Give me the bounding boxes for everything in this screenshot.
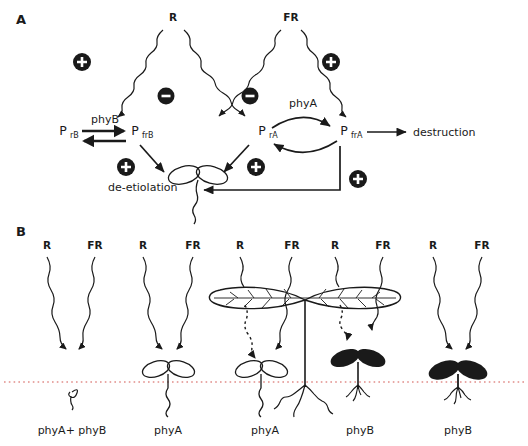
- col3-ray-r-above: [240, 257, 244, 287]
- ray-r-to-pra: [184, 30, 245, 116]
- col3-label-fr: FR: [284, 239, 299, 251]
- col4-ray-r-attenuated: [340, 305, 347, 340]
- col2-genotype: phyA: [154, 424, 182, 437]
- column-2: R FR phyA: [139, 239, 201, 437]
- col4-roots: [346, 385, 370, 401]
- col5-genotype: phyB: [444, 424, 472, 437]
- pool-pfra-sub: frA: [351, 131, 363, 140]
- col5-label-r: R: [429, 239, 437, 251]
- sign-minus-fr-pra: [242, 88, 259, 105]
- col1-ray-fr: [79, 257, 95, 349]
- col1-genotype: phyA+ phyB: [38, 424, 107, 437]
- col5-ray-r: [433, 257, 452, 349]
- col3-ray-r-attenuated: [245, 305, 255, 358]
- pool-pfrb-sub: frB: [142, 131, 154, 140]
- col3-seedling: [233, 358, 289, 417]
- column-3: R FR phyA: [233, 239, 299, 437]
- col3-genotype: phyA: [251, 424, 279, 437]
- sign-plus-pra-deetiolation: [247, 158, 265, 176]
- label-destruction: destruction: [413, 126, 475, 139]
- col5-seedling: [426, 357, 490, 404]
- sign-plus-r-prb: [73, 53, 91, 71]
- sign-plus-pfrb-deetiolation: [117, 158, 135, 176]
- pool-pfrb-base: P: [131, 123, 139, 138]
- pool-pfrb: P frB: [131, 123, 153, 140]
- panel-b: B R FR phyA+ phyB R FR phyA: [4, 224, 524, 437]
- col1-etiolated-seedling: [69, 390, 78, 410]
- arrow-pfra-to-pra: [274, 141, 337, 152]
- col5-ray-fr: [466, 257, 482, 349]
- panel-a-phya-label: phyA: [289, 97, 317, 110]
- panel-a-phyb-label: phyB: [91, 113, 119, 126]
- col4-seedling: [328, 345, 388, 401]
- col1-label-fr: FR: [87, 239, 102, 251]
- canopy-roots: [274, 385, 333, 417]
- sign-plus-pfra-deetiolation: [349, 170, 367, 188]
- pool-prb-sub: rB: [70, 131, 79, 140]
- col2-seedling: [140, 358, 196, 417]
- pool-pfra: P frA: [340, 123, 363, 140]
- panel-a: A R FR: [16, 11, 475, 224]
- sign-minus-r-pfrb: [158, 88, 175, 105]
- column-5: R FR phyB: [426, 239, 490, 437]
- panel-a-label-fr: FR: [283, 11, 298, 23]
- pool-prb: P rB: [59, 123, 79, 140]
- column-4: R FR phyB: [328, 239, 390, 437]
- col2-label-r: R: [139, 239, 147, 251]
- col4-label-r: R: [331, 239, 339, 251]
- col4-genotype: phyB: [346, 424, 374, 437]
- panel-a-label-r: R: [169, 11, 177, 23]
- pool-pra-sub: rA: [269, 131, 278, 140]
- pool-pra-base: P: [258, 123, 266, 138]
- col1-label-r: R: [43, 239, 51, 251]
- col2-ray-r: [143, 257, 162, 349]
- sign-plus-fr-pfra: [322, 53, 340, 71]
- col5-roots: [444, 387, 471, 404]
- col5-label-fr: FR: [474, 239, 489, 251]
- arrow-pfrb-to-deetiolation: [140, 145, 164, 172]
- panel-a-letter: A: [16, 12, 26, 27]
- panel-b-letter: B: [16, 224, 26, 239]
- arrow-pra-to-pfra: [272, 117, 330, 128]
- col2-ray-fr: [177, 257, 193, 349]
- label-de-etiolation: de-etiolation: [108, 181, 177, 194]
- col3-label-r: R: [236, 239, 244, 251]
- pool-prb-base: P: [59, 123, 67, 138]
- phytochrome-signalling-figure: A R FR: [0, 0, 528, 446]
- column-1: R FR phyA+ phyB: [38, 239, 107, 437]
- arrow-pra-to-deetiolation: [224, 145, 249, 172]
- col4-label-fr: FR: [375, 239, 390, 251]
- ray-r-to-prb: [118, 30, 163, 117]
- col4-ray-r-above: [335, 257, 339, 287]
- col1-ray-r: [47, 257, 66, 349]
- col2-label-fr: FR: [185, 239, 200, 251]
- pool-pfra-base: P: [340, 123, 348, 138]
